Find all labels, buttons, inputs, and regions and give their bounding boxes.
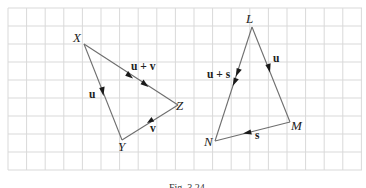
triangle-xyz: X Y Z u v u + v	[72, 30, 184, 154]
vertex-label-z: Z	[176, 98, 184, 113]
vertex-label-m: M	[290, 118, 303, 133]
arrow-us-ln-icon-2	[233, 78, 239, 87]
vertex-label-n: N	[203, 134, 214, 149]
vector-label-s-mn: s	[255, 129, 260, 141]
edge-mn-s	[215, 122, 290, 141]
vertex-label-l: L	[245, 11, 253, 26]
vector-label-u-xy: u	[89, 88, 96, 100]
vector-diagram: X Y Z u v u + v L M N u s u + s Fig. 3.2…	[0, 0, 366, 188]
arrow-uv-xz-icon-2	[141, 79, 149, 87]
arrow-us-ln-icon-1	[236, 68, 242, 77]
figure-caption: Fig. 3.24	[169, 182, 205, 188]
vector-label-u-lm: u	[273, 52, 280, 64]
grid	[8, 8, 362, 170]
edge-xz-u-plus-v	[84, 44, 178, 105]
vector-label-u-plus-s: u + s	[207, 68, 231, 80]
vector-label-u-plus-v: u + v	[131, 60, 156, 72]
vertex-label-x: X	[72, 30, 82, 45]
edge-lm-u	[252, 27, 290, 122]
vector-label-v-yz: v	[150, 122, 156, 134]
